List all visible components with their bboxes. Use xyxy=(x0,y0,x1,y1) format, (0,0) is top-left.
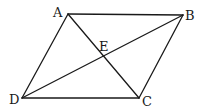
diagonal-bd xyxy=(22,15,183,98)
segment-ab xyxy=(68,14,183,15)
segment-da xyxy=(22,14,68,98)
label-c: C xyxy=(142,94,152,109)
label-a: A xyxy=(52,5,63,20)
label-d: D xyxy=(9,92,19,107)
parallelogram-diagram: A B C D E xyxy=(0,0,202,112)
segments xyxy=(22,14,183,98)
label-e: E xyxy=(99,39,109,54)
label-b: B xyxy=(185,8,195,23)
segment-bc xyxy=(139,15,183,98)
